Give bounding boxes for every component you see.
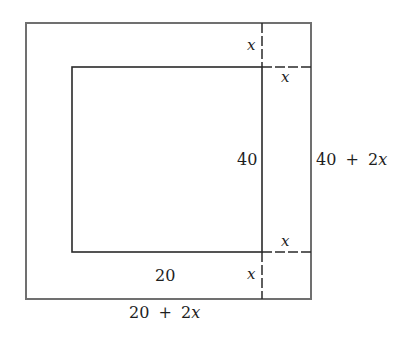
- label-inner-height: 40: [237, 150, 257, 169]
- border-diagram: x x x x 40 20 40 + 2x 20 + 2x: [0, 0, 408, 339]
- label-bottom-right-x: x: [281, 232, 290, 250]
- label-bottom-x: x: [247, 265, 256, 283]
- label-outer-height: 40 + 2x: [316, 150, 387, 169]
- label-outer-width: 20 + 2x: [129, 303, 200, 322]
- label-inner-width: 20: [155, 266, 175, 285]
- outer-rectangle: [26, 23, 311, 299]
- label-top-right-x: x: [281, 68, 290, 86]
- label-top-x: x: [247, 36, 256, 54]
- inner-rectangle: [72, 67, 262, 252]
